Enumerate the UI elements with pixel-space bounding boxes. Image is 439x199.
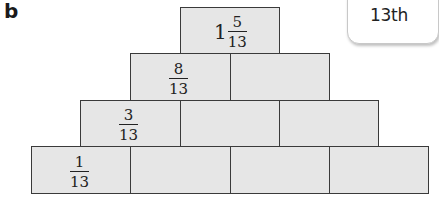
- fraction: 8 13: [169, 61, 188, 97]
- denominator: 13: [169, 78, 188, 97]
- brick-r3-c2[interactable]: [180, 100, 280, 147]
- fraction: 3 13: [119, 107, 138, 143]
- numerator: 1: [74, 154, 86, 171]
- callout-text: 13th: [370, 5, 408, 25]
- denominator: 13: [119, 124, 138, 143]
- brick-r4-c2[interactable]: [130, 146, 231, 194]
- fraction: 5 13: [228, 14, 247, 50]
- denominator: 13: [228, 31, 247, 50]
- fraction: 1 13: [70, 154, 89, 190]
- mixed-number: 1 5 13: [214, 14, 247, 50]
- numerator: 8: [173, 61, 185, 78]
- brick-r4-c4[interactable]: [329, 146, 429, 194]
- hint-callout: 13th: [347, 0, 439, 44]
- denominator: 13: [70, 171, 89, 190]
- whole-part: 1: [214, 20, 227, 44]
- brick-r1-c1: 1 5 13: [180, 7, 280, 54]
- problem-label: b: [4, 0, 18, 23]
- numerator: 5: [232, 14, 244, 31]
- brick-r3-c1: 3 13: [80, 100, 181, 147]
- brick-r4-c3[interactable]: [230, 146, 330, 194]
- numerator: 3: [123, 107, 135, 124]
- brick-r2-c1: 8 13: [130, 53, 231, 101]
- brick-r3-c3[interactable]: [279, 100, 379, 147]
- brick-r2-c2[interactable]: [230, 53, 330, 101]
- brick-r4-c1: 1 13: [31, 146, 131, 194]
